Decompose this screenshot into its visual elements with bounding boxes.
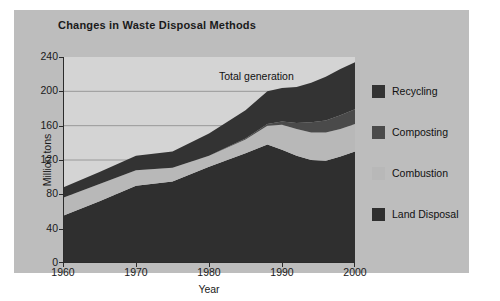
y-tick-label: 160 xyxy=(40,119,58,131)
annotation-total-generation: Total generation xyxy=(219,70,294,82)
x-tick-label: 1980 xyxy=(197,266,220,278)
y-tick-mark xyxy=(59,194,63,195)
x-axis-title: Year xyxy=(198,283,219,295)
legend-item-recycling[interactable]: Recycling xyxy=(372,83,467,99)
plot-wrapper: 04080120160200240 19601970198019902000 M… xyxy=(63,57,355,263)
chart-title: Changes in Waste Disposal Methods xyxy=(58,19,256,31)
x-tick-mark xyxy=(354,263,355,267)
x-tick-mark xyxy=(282,263,283,267)
legend-label: Recycling xyxy=(392,85,438,97)
chart-panel: Changes in Waste Disposal Methods 040801… xyxy=(14,10,469,273)
y-tick-mark xyxy=(59,91,63,92)
y-axis-line xyxy=(63,57,64,263)
area-layers xyxy=(63,62,355,263)
y-tick-label: 200 xyxy=(40,84,58,96)
chart-legend: RecyclingCompostingCombustionLand Dispos… xyxy=(372,57,467,263)
plot-area xyxy=(63,57,355,263)
legend-swatch-icon xyxy=(372,126,385,139)
x-tick-label: 2000 xyxy=(343,266,366,278)
y-tick-mark xyxy=(59,160,63,161)
legend-swatch-icon xyxy=(372,85,385,98)
y-tick-label: 40 xyxy=(46,222,58,234)
legend-label: Composting xyxy=(392,126,448,138)
x-tick-mark xyxy=(63,263,64,267)
x-tick-mark xyxy=(136,263,137,267)
x-tick-label: 1960 xyxy=(51,266,74,278)
legend-swatch-icon xyxy=(372,167,385,180)
chart-figure: Changes in Waste Disposal Methods 040801… xyxy=(0,0,500,301)
y-tick-mark xyxy=(59,229,63,230)
x-axis-tick-labels: 19601970198019902000 xyxy=(63,266,355,282)
legend-item-land-disposal[interactable]: Land Disposal xyxy=(372,206,467,222)
legend-swatch-icon xyxy=(372,208,385,221)
y-tick-label: 80 xyxy=(46,187,58,199)
y-axis-title: Million tons xyxy=(41,134,53,187)
stacked-area-svg xyxy=(63,57,355,263)
legend-label: Combustion xyxy=(392,167,448,179)
legend-item-combustion[interactable]: Combustion xyxy=(372,165,467,181)
x-tick-label: 1970 xyxy=(124,266,147,278)
x-tick-label: 1990 xyxy=(270,266,293,278)
legend-label: Land Disposal xyxy=(392,208,459,220)
x-tick-mark xyxy=(209,263,210,267)
y-tick-label: 240 xyxy=(40,50,58,62)
y-tick-mark xyxy=(59,57,63,58)
legend-item-composting[interactable]: Composting xyxy=(372,124,467,140)
y-tick-mark xyxy=(59,126,63,127)
